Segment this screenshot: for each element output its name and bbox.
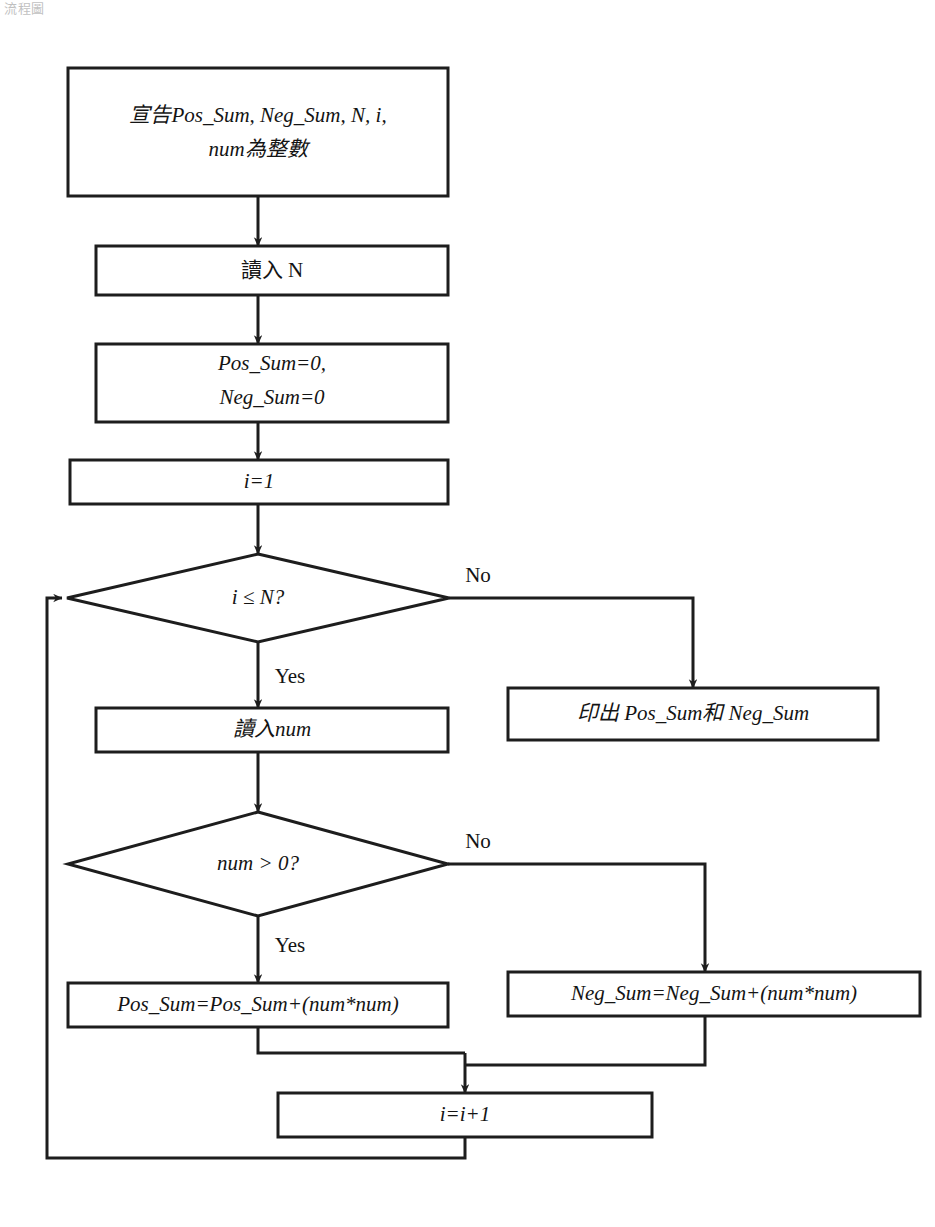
- connector-add-neg-to-merge: [465, 1016, 705, 1065]
- node-cond-loop-label: i ≤ N?: [232, 585, 285, 609]
- node-add-pos-label: Pos_Sum=Pos_Sum+(num*num): [116, 992, 399, 1016]
- node-read-n: 讀入 N: [96, 246, 448, 295]
- node-add-neg-label: Neg_Sum=Neg_Sum+(num*num): [570, 981, 857, 1005]
- node-increment-i-label: i=i+1: [440, 1102, 491, 1126]
- flowchart-svg: 宣告Pos_Sum, Neg_Sum, N, i, num為整數 讀入 N Po…: [0, 0, 935, 1227]
- connector-add-pos-to-merge: [258, 1027, 465, 1053]
- node-init-sums: Pos_Sum=0, Neg_Sum=0: [96, 344, 448, 422]
- node-add-neg: Neg_Sum=Neg_Sum+(num*num): [508, 972, 920, 1016]
- flowchart-canvas: 流程圖: [0, 0, 935, 1227]
- node-cond-positive: num > 0?: [68, 812, 448, 916]
- branch-label-positive-yes: Yes: [275, 933, 306, 957]
- node-print-result: 印出 Pos_Sum和 Neg_Sum: [508, 688, 878, 740]
- node-print-result-label: 印出 Pos_Sum和 Neg_Sum: [577, 701, 809, 725]
- node-cond-positive-label: num > 0?: [217, 851, 299, 875]
- connector-cond-positive-no-to-add-neg: [448, 864, 705, 972]
- node-init-i: i=1: [70, 460, 448, 504]
- node-read-num: 讀入num: [96, 708, 448, 752]
- node-init-sums-line2: Neg_Sum=0: [218, 385, 325, 409]
- node-add-pos: Pos_Sum=Pos_Sum+(num*num): [68, 983, 448, 1027]
- node-declare: 宣告Pos_Sum, Neg_Sum, N, i, num為整數: [68, 68, 448, 196]
- node-declare-line2: num為整數: [208, 137, 310, 161]
- page-corner-caption: 流程圖: [4, 0, 45, 17]
- node-declare-line1: 宣告Pos_Sum, Neg_Sum, N, i,: [129, 103, 386, 127]
- connector-cond-loop-no-to-print: [449, 598, 693, 688]
- node-declare-shape: [68, 68, 448, 196]
- branch-label-positive-no: No: [465, 829, 491, 853]
- node-init-sums-line1: Pos_Sum=0,: [217, 351, 326, 375]
- node-read-num-label: 讀入num: [233, 717, 311, 741]
- node-cond-loop: i ≤ N?: [67, 554, 449, 642]
- branch-label-loop-yes: Yes: [275, 664, 306, 688]
- node-increment-i: i=i+1: [278, 1093, 652, 1137]
- node-read-n-label: 讀入 N: [241, 258, 303, 282]
- branch-label-loop-no: No: [465, 563, 491, 587]
- node-init-i-label: i=1: [244, 469, 275, 493]
